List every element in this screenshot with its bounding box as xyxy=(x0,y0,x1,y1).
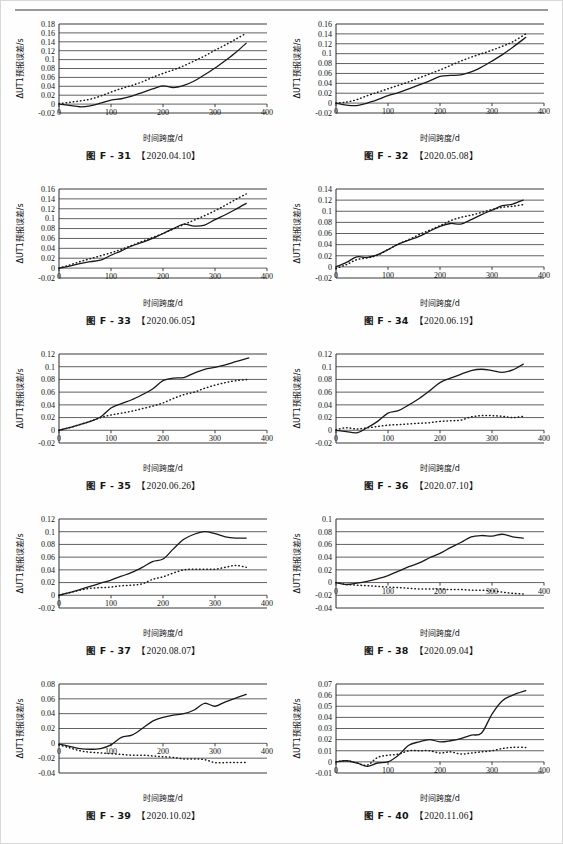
figure-date: 【2020.10.02】 xyxy=(131,811,201,821)
svg-text:200: 200 xyxy=(157,747,169,756)
svg-text:0.08: 0.08 xyxy=(41,680,55,689)
y-tick-labels: -0.04-0.0200.020.040.060.08 xyxy=(38,680,55,778)
svg-text:200: 200 xyxy=(434,107,446,116)
x-tickmarks xyxy=(59,430,267,433)
svg-text:300: 300 xyxy=(486,107,498,116)
svg-text:100: 100 xyxy=(382,107,394,116)
gridlines xyxy=(59,519,267,608)
svg-text:-0.02: -0.02 xyxy=(38,604,55,613)
svg-text:100: 100 xyxy=(105,747,117,756)
x-tickmarks xyxy=(59,743,267,746)
y-axis-title: ΔUT1预报误差/s xyxy=(15,698,25,758)
svg-text:200: 200 xyxy=(434,766,446,775)
svg-text:0.1: 0.1 xyxy=(45,55,55,64)
svg-text:300: 300 xyxy=(486,271,498,280)
svg-text:0.02: 0.02 xyxy=(318,89,332,98)
svg-text:300: 300 xyxy=(209,272,221,281)
chart-f-35: -0.0200.020.040.060.080.10.1201002003004… xyxy=(13,347,275,477)
figure-caption: 图 F - 34 【2020.06.19】 xyxy=(364,313,480,327)
svg-text:0.08: 0.08 xyxy=(318,218,332,227)
svg-text:0.1: 0.1 xyxy=(322,207,332,216)
svg-text:0.06: 0.06 xyxy=(318,229,332,238)
y-axis-title: ΔUT1预报误差/s xyxy=(292,368,302,428)
gridlines xyxy=(336,24,544,113)
x-tick-labels: 0100200300400 xyxy=(334,434,550,443)
svg-text:0.02: 0.02 xyxy=(41,578,55,587)
chart-f-40: -0.0100.010.020.030.040.050.060.07010020… xyxy=(290,677,552,807)
x-tickmarks xyxy=(336,430,544,433)
svg-text:300: 300 xyxy=(209,108,221,117)
svg-text:0.16: 0.16 xyxy=(318,20,332,29)
figure-date: 【2020.08.07】 xyxy=(131,646,201,656)
figure-caption: 图 F - 39 【2020.10.02】 xyxy=(86,808,202,822)
svg-text:0.1: 0.1 xyxy=(45,528,55,537)
svg-text:0.14: 0.14 xyxy=(41,38,55,47)
y-axis-title: ΔUT1预报误差/s xyxy=(292,533,302,593)
figure-caption: 图 F - 33 【2020.06.05】 xyxy=(86,313,202,327)
svg-text:100: 100 xyxy=(382,434,394,443)
x-axis-title: 时间跨度/d xyxy=(143,463,183,473)
svg-text:0: 0 xyxy=(328,578,332,587)
svg-text:0.07: 0.07 xyxy=(318,680,332,689)
svg-text:-0.02: -0.02 xyxy=(316,439,333,448)
x-axis-title: 时间跨度/d xyxy=(420,298,460,308)
svg-text:0.1: 0.1 xyxy=(45,214,55,223)
figure-date: 【2020.06.05】 xyxy=(131,316,201,326)
svg-text:0.04: 0.04 xyxy=(41,82,55,91)
gridlines xyxy=(336,354,544,443)
svg-text:-0.02: -0.02 xyxy=(316,274,333,283)
x-tick-labels: 0100200300400 xyxy=(334,766,550,775)
svg-text:0.14: 0.14 xyxy=(41,195,55,204)
svg-text:0.02: 0.02 xyxy=(318,252,332,261)
svg-text:0.06: 0.06 xyxy=(41,73,55,82)
svg-text:-0.02: -0.02 xyxy=(38,754,55,763)
x-axis-title: 时间跨度/d xyxy=(420,133,460,143)
svg-text:0.12: 0.12 xyxy=(41,205,55,214)
svg-text:0: 0 xyxy=(334,766,338,775)
gridlines xyxy=(59,354,267,443)
gridlines xyxy=(59,684,267,773)
svg-text:0.18: 0.18 xyxy=(41,20,55,29)
figure-cell: -0.0200.020.040.060.080.10.120.140.16010… xyxy=(5,182,283,347)
x-tick-labels: 0100200300400 xyxy=(334,107,550,116)
chart-f-34: -0.0200.020.040.060.080.10.120.140100200… xyxy=(290,182,552,312)
svg-text:400: 400 xyxy=(261,599,273,608)
figure-caption: 图 F - 32 【2020.05.08】 xyxy=(364,148,480,162)
svg-text:0.1: 0.1 xyxy=(322,49,332,58)
svg-text:-0.04: -0.04 xyxy=(316,604,333,613)
svg-text:0: 0 xyxy=(51,264,55,273)
svg-text:0: 0 xyxy=(334,107,338,116)
x-tickmarks xyxy=(336,267,544,270)
figure-cell: -0.0200.020.040.060.080.10.1201002003004… xyxy=(283,347,561,512)
x-tick-labels: 0100200300400 xyxy=(57,272,273,281)
svg-text:0.12: 0.12 xyxy=(318,40,332,49)
svg-text:0: 0 xyxy=(328,426,332,435)
gridlines xyxy=(336,189,544,278)
figure-label: 图 F - 33 xyxy=(86,315,131,326)
svg-text:0.04: 0.04 xyxy=(41,709,55,718)
svg-text:100: 100 xyxy=(105,272,117,281)
svg-text:0.1: 0.1 xyxy=(45,363,55,372)
x-axis-title: 时间跨度/d xyxy=(420,463,460,473)
svg-text:0.04: 0.04 xyxy=(318,713,332,722)
figure-label: 图 F - 38 xyxy=(364,645,409,656)
svg-text:400: 400 xyxy=(261,272,273,281)
dotted-line-series xyxy=(336,747,526,765)
svg-text:0.02: 0.02 xyxy=(318,566,332,575)
svg-text:200: 200 xyxy=(157,272,169,281)
svg-text:0.12: 0.12 xyxy=(41,47,55,56)
svg-text:0.04: 0.04 xyxy=(41,244,55,253)
chart-f-39: -0.04-0.0200.020.040.060.080100200300400… xyxy=(13,677,275,807)
svg-text:300: 300 xyxy=(486,434,498,443)
figure-cell: -0.0200.020.040.060.080.10.1201002003004… xyxy=(5,512,283,677)
svg-text:200: 200 xyxy=(434,271,446,280)
svg-text:100: 100 xyxy=(105,599,117,608)
figure-date: 【2020.05.08】 xyxy=(409,151,479,161)
svg-text:100: 100 xyxy=(382,271,394,280)
svg-text:0.12: 0.12 xyxy=(41,515,55,524)
svg-text:0.06: 0.06 xyxy=(41,695,55,704)
svg-text:0: 0 xyxy=(57,599,61,608)
y-axis-title: ΔUT1预报误差/s xyxy=(292,38,302,98)
svg-text:200: 200 xyxy=(157,599,169,608)
figure-date: 【2020.07.10】 xyxy=(409,481,479,491)
